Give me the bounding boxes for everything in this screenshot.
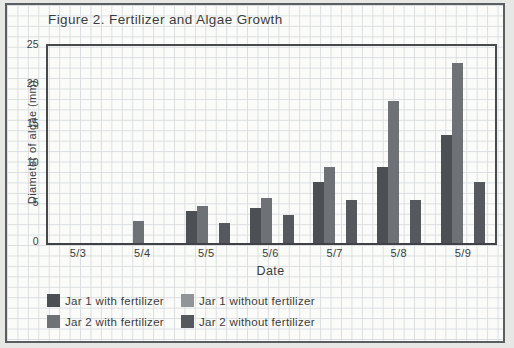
y-tick-label-5: 5 — [33, 196, 39, 208]
legend-swatch-icon — [47, 294, 60, 307]
legend-label: Jar 2 with fertilizer — [65, 316, 164, 328]
category-cell-5/5 — [176, 46, 240, 243]
bar-group-5/6 — [250, 46, 294, 243]
bar-jar-2-with-fertilizer — [388, 101, 399, 243]
legend-swatch-icon — [181, 315, 194, 328]
category-cell-5/8 — [367, 46, 431, 243]
y-tick-label-15: 15 — [27, 117, 39, 129]
bar-jar-1-with-fertilizer — [441, 135, 452, 243]
bar-jar-2-without-fertilizer — [346, 200, 357, 243]
legend-item-jar-1-without-fertilizer: Jar 1 without fertilizer — [181, 294, 315, 307]
bar-jar-1-with-fertilizer — [186, 211, 197, 243]
category-cell-5/6 — [240, 46, 304, 243]
category-cell-5/3 — [48, 46, 112, 243]
bar-jar-2-without-fertilizer — [410, 200, 421, 243]
y-tick-label-20: 20 — [27, 77, 39, 89]
y-tick-label-10: 10 — [27, 156, 39, 168]
x-axis-ticks: 5/35/45/55/65/75/85/9 — [46, 247, 495, 259]
y-tick-label-25: 25 — [27, 38, 39, 50]
category-cell-5/9 — [431, 46, 495, 243]
x-tick-label-5/4: 5/4 — [110, 247, 174, 259]
x-tick-label-5/5: 5/5 — [174, 247, 238, 259]
plot-area — [46, 44, 497, 245]
bar-group-5/5 — [186, 46, 230, 243]
category-cell-5/7 — [303, 46, 367, 243]
bar-jar-1-with-fertilizer — [377, 167, 388, 243]
legend-label: Jar 1 without fertilizer — [199, 295, 315, 307]
x-tick-label-5/3: 5/3 — [46, 247, 110, 259]
x-tick-label-5/9: 5/9 — [431, 247, 495, 259]
bar-group-5/3 — [58, 46, 102, 243]
x-tick-label-5/8: 5/8 — [367, 247, 431, 259]
legend-item-jar-2-without-fertilizer: Jar 2 without fertilizer — [181, 315, 315, 328]
x-tick-label-5/6: 5/6 — [238, 247, 302, 259]
bar-group-5/8 — [377, 46, 421, 243]
bar-jar-1-with-fertilizer — [313, 182, 324, 243]
x-axis-title: Date — [46, 264, 495, 278]
x-tick-label-5/7: 5/7 — [303, 247, 367, 259]
legend-swatch-icon — [181, 294, 194, 307]
legend-label: Jar 2 without fertilizer — [199, 316, 315, 328]
bar-group-5/9 — [441, 46, 485, 243]
bar-jar-2-with-fertilizer — [324, 167, 335, 243]
figure-frame: Figure 2. Fertilizer and Algae Growth Di… — [5, 3, 505, 343]
bar-group-5/7 — [313, 46, 357, 243]
legend-swatch-icon — [47, 315, 60, 328]
bar-group-5/4 — [122, 46, 166, 243]
legend-item-jar-1-with-fertilizer: Jar 1 with fertilizer — [47, 294, 181, 307]
bar-jar-2-with-fertilizer — [133, 221, 144, 243]
bar-jar-2-without-fertilizer — [474, 182, 485, 243]
y-axis-ticks: 2520151050 — [7, 44, 42, 241]
legend-label: Jar 1 with fertilizer — [65, 295, 164, 307]
category-cell-5/4 — [112, 46, 176, 243]
bar-jar-2-with-fertilizer — [452, 63, 463, 243]
legend-item-jar-2-with-fertilizer: Jar 2 with fertilizer — [47, 315, 181, 328]
y-tick-label-0: 0 — [33, 235, 39, 247]
figure-title: Figure 2. Fertilizer and Algae Growth — [48, 12, 283, 27]
bar-jar-2-without-fertilizer — [219, 223, 230, 243]
bar-jar-2-with-fertilizer — [261, 198, 272, 243]
bar-jar-1-with-fertilizer — [250, 208, 261, 243]
bar-jar-2-without-fertilizer — [283, 215, 294, 243]
bar-jar-2-with-fertilizer — [197, 206, 208, 243]
legend: Jar 1 with fertilizerJar 1 without ferti… — [47, 294, 315, 328]
